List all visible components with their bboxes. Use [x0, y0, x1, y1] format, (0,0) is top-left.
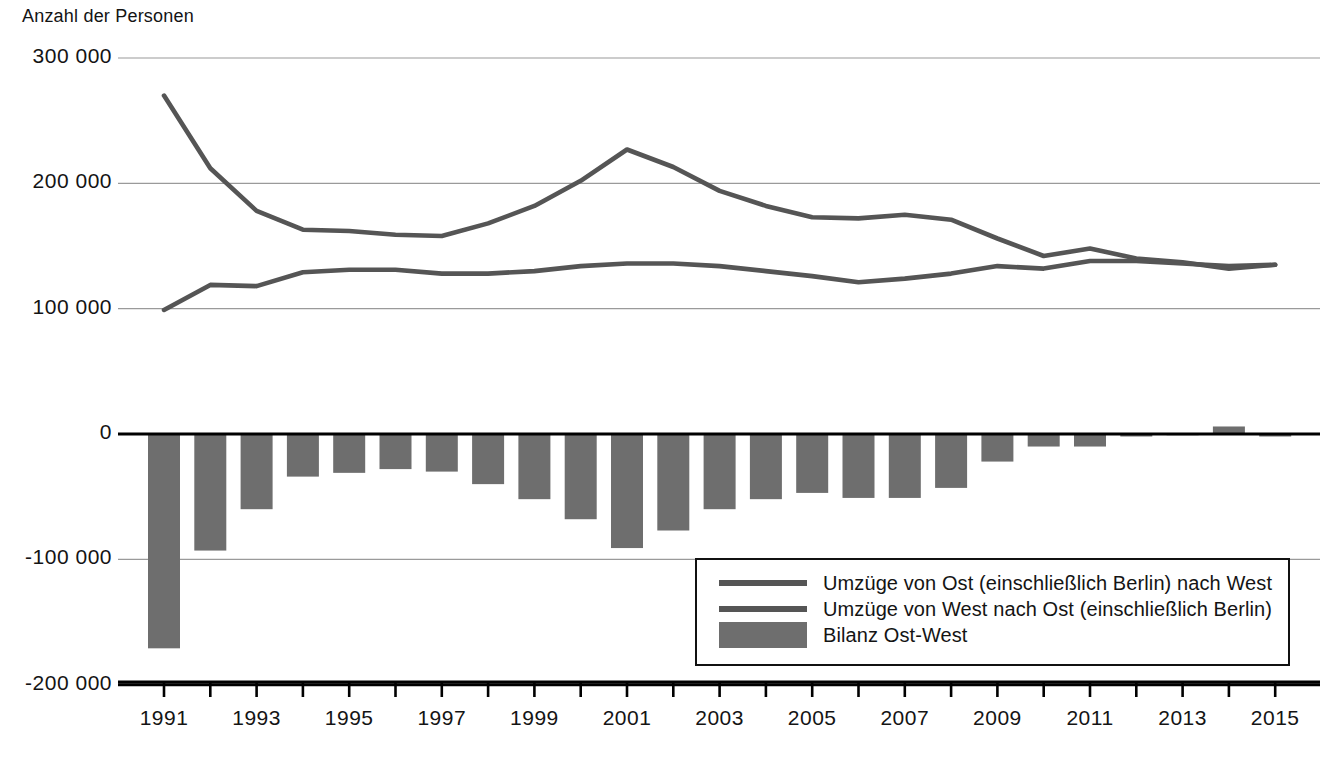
x-tick-label: 2013	[1138, 706, 1228, 730]
legend-item-ost-west: Umzüge von Ost (einschließlich Berlin) n…	[697, 570, 1288, 596]
x-tick-label: 1991	[119, 706, 209, 730]
legend-label-ost-west: Umzüge von Ost (einschließlich Berlin) n…	[823, 572, 1272, 595]
y-tick-label: -100 000	[0, 545, 112, 569]
legend-label-bilanz: Bilanz Ost-West	[823, 624, 968, 647]
legend-item-west-ost: Umzüge von West nach Ost (einschließlich…	[697, 596, 1288, 622]
x-tick-label: 2003	[675, 706, 765, 730]
x-tick-label: 2005	[767, 706, 857, 730]
chart-legend: Umzüge von Ost (einschließlich Berlin) n…	[695, 558, 1290, 666]
x-tick-label: 2009	[952, 706, 1042, 730]
legend-bar-swatch-bilanz	[719, 622, 807, 648]
y-tick-label: 200 000	[0, 169, 112, 193]
y-tick-label: 0	[0, 420, 112, 444]
legend-line-swatch-west-ost	[719, 606, 807, 612]
x-tick-label: 2015	[1230, 706, 1320, 730]
legend-item-bilanz: Bilanz Ost-West	[697, 622, 1288, 648]
y-tick-label: 100 000	[0, 295, 112, 319]
x-tick-label: 2007	[860, 706, 950, 730]
x-tick-label: 1995	[304, 706, 394, 730]
y-tick-label: 300 000	[0, 44, 112, 68]
x-tick-label: 1999	[489, 706, 579, 730]
x-tick-label: 1993	[212, 706, 302, 730]
legend-label-west-ost: Umzüge von West nach Ost (einschließlich…	[823, 598, 1272, 621]
y-tick-label: -200 000	[0, 671, 112, 695]
x-tick-label: 2001	[582, 706, 672, 730]
legend-line-swatch-ost-west	[719, 580, 807, 586]
lines-group	[164, 96, 1275, 310]
x-tick-label: 2011	[1045, 706, 1135, 730]
x-tick-label: 1997	[397, 706, 487, 730]
chart-root: Anzahl der Personen 300 000200 000100 00…	[0, 0, 1328, 758]
